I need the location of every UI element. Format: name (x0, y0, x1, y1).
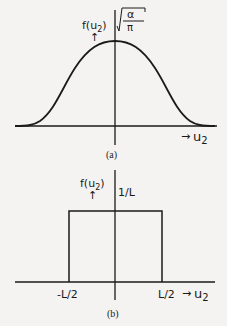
figure-a-x-label: u2 (193, 130, 208, 143)
figure-b-caption: (b) (107, 309, 119, 319)
figure-b-left-tick-label: -L/2 (57, 289, 78, 300)
figure-b-plot (15, 170, 215, 300)
figure-b-x-arrow-icon: → (182, 288, 191, 299)
figure-a-x-arrow-icon: → (181, 131, 190, 142)
figure-b-y-arrow-icon: ↑ (88, 190, 97, 201)
figure-b-y-label: f(u2) (80, 178, 105, 189)
figure-b-right-tick-label: L/2 (158, 289, 175, 300)
figure-a-plot (15, 8, 217, 145)
figure-canvas (0, 0, 227, 326)
figure-a-y-arrow-icon: ↑ (90, 32, 99, 43)
figure-a-y-label: f(u2) (82, 20, 107, 31)
figure-a-caption: (a) (106, 150, 117, 160)
figure-b-height-label: 1/L (118, 187, 135, 198)
figure-b-x-label: u2 (194, 287, 209, 300)
figure-a-peak-denominator: π (127, 23, 133, 33)
figure-a-peak-numerator: α (127, 9, 134, 20)
